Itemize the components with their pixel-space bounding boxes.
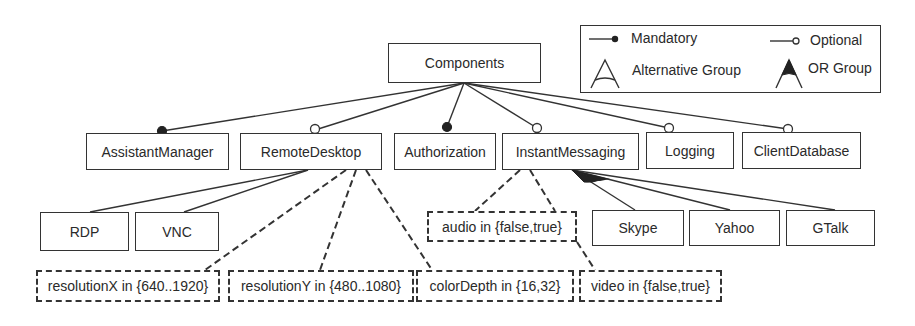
feature-label: GTalk	[813, 220, 849, 236]
feature-clientdatabase: ClientDatabase	[742, 132, 861, 169]
legend: Mandatory Optional Alternative Group OR …	[580, 25, 881, 93]
feature-assistantmanager: AssistantManager	[86, 133, 229, 170]
legend-mandatory-label: Mandatory	[631, 30, 697, 46]
edge-remotedesktop	[315, 83, 464, 130]
feature-remotedesktop: RemoteDesktop	[240, 133, 382, 170]
feature-logging: Logging	[646, 132, 734, 169]
edge-attr-video	[577, 242, 595, 270]
attribute-label: resolutionY in {480..1080}	[241, 278, 401, 294]
attribute-audio: audio in {false,true}	[427, 211, 577, 242]
attribute-label: audio in {false,true}	[442, 219, 562, 235]
feature-label: ClientDatabase	[754, 143, 850, 159]
attribute-label: colorDepth in {16,32}	[430, 278, 561, 294]
edge-attr-colordepth	[366, 170, 432, 270]
edge-assistantmanager	[162, 83, 464, 131]
legend-alternative-group-label: Alternative Group	[632, 62, 741, 78]
feature-instantmessaging: InstantMessaging	[502, 133, 639, 170]
feature-label: AssistantManager	[101, 144, 213, 160]
feature-label: Yahoo	[715, 220, 754, 236]
feature-label: InstantMessaging	[516, 144, 626, 160]
attribute-label: resolutionX in {640..1920}	[48, 278, 208, 294]
feature-label: RemoteDesktop	[261, 144, 361, 160]
edge-attr-audio-right	[530, 170, 555, 211]
attribute-label: video in {false,true}	[591, 278, 710, 294]
feature-yahoo: Yahoo	[689, 210, 780, 246]
feature-label: Authorization	[404, 144, 486, 160]
mandatory-dot-authorization	[443, 123, 452, 132]
feature-authorization: Authorization	[394, 133, 496, 170]
optional-dot-instantmessaging	[533, 124, 542, 133]
edge-rdp	[90, 170, 308, 212]
feature-label: RDP	[70, 224, 100, 240]
feature-label: Components	[425, 55, 504, 71]
edge-authorization	[447, 83, 464, 127]
edge-instantmessaging	[464, 83, 537, 128]
legend-optional-label: Optional	[810, 32, 862, 48]
or-group-icon	[774, 58, 806, 90]
alternative-group-icon	[589, 58, 621, 90]
legend-or-group-label: OR Group	[808, 60, 872, 76]
attribute-resolutiony: resolutionY in {480..1080}	[228, 270, 414, 302]
feature-label: VNC	[162, 224, 192, 240]
feature-skype: Skype	[592, 210, 684, 246]
feature-label: Logging	[665, 143, 715, 159]
feature-model-diagram: Components AssistantManager RemoteDeskto…	[0, 0, 915, 326]
feature-label: Skype	[619, 220, 658, 236]
attribute-colordepth: colorDepth in {16,32}	[416, 270, 574, 302]
feature-rdp: RDP	[40, 212, 129, 251]
attribute-resolutionx: resolutionX in {640..1920}	[36, 270, 220, 302]
optional-icon	[770, 35, 802, 47]
edge-attr-audio-left	[475, 170, 520, 211]
mandatory-icon	[589, 33, 621, 45]
feature-components: Components	[388, 43, 541, 83]
feature-gtalk: GTalk	[786, 210, 875, 246]
feature-vnc: VNC	[135, 212, 219, 251]
attribute-video: video in {false,true}	[579, 270, 722, 302]
